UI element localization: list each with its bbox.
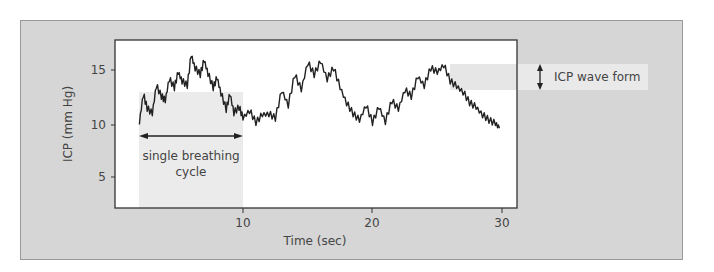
y-axis-title: ICP (mm Hg) <box>61 86 75 162</box>
x-axis-title: Time (sec) <box>283 234 347 248</box>
y-tick-15: 15 <box>91 63 106 77</box>
x-tick-10: 10 <box>235 216 250 230</box>
x-tick-20: 20 <box>364 216 379 230</box>
icp-chart: 15 10 5 10 20 30 Time (sec) ICP (mm Hg) … <box>0 0 714 272</box>
breathing-cycle-label-line1: single breathing <box>142 149 239 163</box>
x-tick-30: 30 <box>494 216 509 230</box>
x-axis <box>243 208 502 213</box>
breathing-cycle-label-line2: cycle <box>175 165 206 179</box>
y-tick-10: 10 <box>91 118 106 132</box>
y-tick-5: 5 <box>98 170 106 184</box>
wave-form-label: ICP wave form <box>554 70 640 84</box>
